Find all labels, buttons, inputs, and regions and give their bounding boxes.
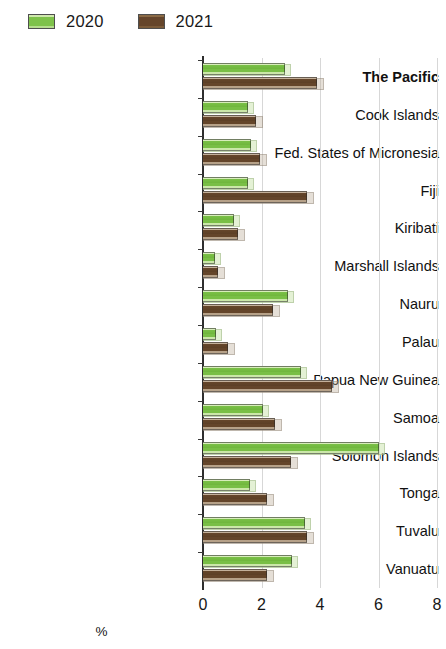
x-axis-title: % — [0, 624, 439, 639]
x-tick-label-4: 4 — [300, 596, 340, 614]
x-axis-title-text: % — [95, 624, 107, 639]
plot-area — [203, 58, 437, 588]
legend-swatch-2021-icon — [138, 14, 165, 29]
bar-row — [203, 209, 437, 247]
bar-row — [203, 134, 437, 172]
bar-2021[interactable] — [203, 77, 317, 89]
bar-2020[interactable] — [203, 479, 250, 491]
legend-label-2020: 2020 — [66, 12, 104, 31]
bar-row — [203, 550, 437, 588]
chart-legend: 2020 2021 — [28, 8, 213, 34]
bar-2020[interactable] — [203, 177, 248, 189]
bar-2020[interactable] — [203, 139, 251, 151]
bar-row — [203, 285, 437, 323]
category-tick — [198, 363, 203, 364]
legend-item-2021[interactable]: 2021 — [138, 12, 214, 31]
bar-row — [203, 96, 437, 134]
category-tick — [198, 60, 203, 61]
bar-row — [203, 437, 437, 475]
bar-2020[interactable] — [203, 101, 248, 113]
bar-2021[interactable] — [203, 531, 307, 543]
bar-row — [203, 58, 437, 96]
category-tick — [198, 439, 203, 440]
x-tick-label-2: 2 — [242, 596, 282, 614]
category-tick — [198, 476, 203, 477]
bar-2021[interactable] — [203, 191, 307, 203]
bar-2020[interactable] — [203, 328, 216, 340]
category-tick — [198, 552, 203, 553]
bar-2020[interactable] — [203, 404, 263, 416]
bar-2020[interactable] — [203, 442, 379, 454]
bar-2020[interactable] — [203, 517, 305, 529]
legend-item-2020[interactable]: 2020 — [28, 12, 104, 31]
bar-2020[interactable] — [203, 252, 215, 264]
bar-row — [203, 247, 437, 285]
bar-2021[interactable] — [203, 493, 267, 505]
bar-row — [203, 474, 437, 512]
bar-2021[interactable] — [203, 569, 267, 581]
x-tick-label-0: 0 — [183, 596, 223, 614]
bar-2020[interactable] — [203, 555, 292, 567]
bar-2020[interactable] — [203, 63, 285, 75]
bar-2021[interactable] — [203, 418, 275, 430]
bar-2021[interactable] — [203, 266, 218, 278]
category-tick — [198, 514, 203, 515]
x-tick-label-8: 8 — [417, 596, 446, 614]
bar-row — [203, 399, 437, 437]
bar-2020[interactable] — [203, 290, 288, 302]
bar-row — [203, 172, 437, 210]
bar-row — [203, 361, 437, 399]
bar-2020[interactable] — [203, 214, 234, 226]
bar-row — [203, 323, 437, 361]
bar-2020[interactable] — [203, 366, 301, 378]
bar-2021[interactable] — [203, 380, 332, 392]
bar-2021[interactable] — [203, 153, 260, 165]
category-tick — [198, 211, 203, 212]
category-tick — [198, 136, 203, 137]
x-tick-label-6: 6 — [359, 596, 399, 614]
category-tick — [198, 249, 203, 250]
bar-2021[interactable] — [203, 228, 238, 240]
category-tick — [198, 174, 203, 175]
category-tick — [198, 401, 203, 402]
bar-2021[interactable] — [203, 342, 228, 354]
category-tick — [198, 98, 203, 99]
bar-2021[interactable] — [203, 304, 273, 316]
gridline-8 — [437, 58, 438, 588]
legend-swatch-2020-icon — [28, 14, 55, 29]
bar-row — [203, 512, 437, 550]
category-tick — [198, 287, 203, 288]
legend-label-2021: 2021 — [176, 12, 214, 31]
category-tick — [198, 325, 203, 326]
bar-2021[interactable] — [203, 115, 256, 127]
bar-2021[interactable] — [203, 456, 291, 468]
